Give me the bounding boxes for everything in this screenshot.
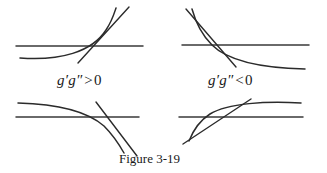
figure-3-19-container: g′g″>0 g′g″<0 Figure 3-19 (0, 0, 327, 173)
label-left-g2: g (68, 72, 76, 88)
label-right-relation: < (233, 72, 245, 88)
panel-top-left-tangent-line (78, 7, 129, 63)
panel-bottom-left (16, 102, 139, 156)
panel-bottom-right-curve (189, 102, 301, 141)
panel-bottom-right (179, 99, 303, 144)
label-right-g2: g (219, 72, 227, 88)
label-left-value: 0 (94, 72, 102, 88)
panel-bottom-right-tangent-line (183, 99, 251, 144)
label-left-g1: g (57, 72, 65, 88)
label-left-relation: > (82, 72, 94, 88)
label-right-value: 0 (245, 72, 253, 88)
panel-top-left (16, 7, 143, 63)
panel-label-right: g′g″<0 (208, 72, 253, 89)
label-right-g1: g (208, 72, 216, 88)
panel-top-right-curve (192, 9, 305, 69)
panel-top-right (182, 9, 309, 69)
panel-bottom-left-tangent-line (96, 102, 137, 156)
panel-top-left-curve (20, 8, 116, 59)
panel-bottom-left-curve (18, 103, 124, 153)
panel-label-left: g′g″>0 (57, 72, 102, 89)
figure-caption: Figure 3-19 (119, 151, 180, 167)
panel-top-right-tangent-line (186, 9, 236, 67)
figure-drawing-canvas (0, 0, 327, 173)
